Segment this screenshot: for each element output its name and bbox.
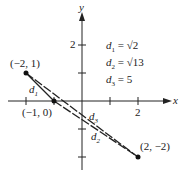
distance-legend: d1 = √2 d2 = √13 d3 = 5 <box>106 40 144 89</box>
x-axis-label: x <box>173 95 178 106</box>
y-axis-label: y <box>79 2 84 13</box>
y-axis-arrow-icon <box>79 12 85 21</box>
point-label-b: (−1, 0) <box>22 107 52 118</box>
segment-label-d1: d1 <box>29 84 38 98</box>
x-axis-arrow-icon <box>163 98 172 104</box>
y-tick-label: 2 <box>70 39 76 50</box>
point-b <box>52 99 57 104</box>
point-label-a: (−2, 1) <box>10 58 40 69</box>
legend-d3: d3 = 5 <box>106 74 144 88</box>
segment-d2 <box>54 101 138 157</box>
point-c <box>136 155 141 160</box>
x-tick-label: 2 <box>135 107 141 118</box>
legend-d2: d2 = √13 <box>106 57 144 71</box>
point-label-c: (2, −2) <box>140 141 170 152</box>
segment-label-d2: d2 <box>91 131 100 145</box>
segment-label-d3: d3 <box>89 111 98 125</box>
legend-d1: d1 = √2 <box>106 40 144 54</box>
point-a <box>24 71 29 76</box>
